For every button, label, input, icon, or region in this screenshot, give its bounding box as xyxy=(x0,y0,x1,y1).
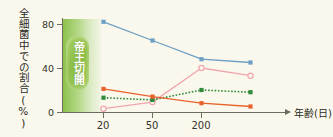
green-series-line xyxy=(104,90,251,100)
orange-series-point-0 xyxy=(101,87,105,91)
orange-series-point-2 xyxy=(199,101,203,105)
blue-series-line xyxy=(104,22,251,63)
blue-series-point-2 xyxy=(199,57,203,61)
green-series-point-2 xyxy=(199,88,203,92)
orange-series-point-1 xyxy=(150,95,154,99)
green-series-point-3 xyxy=(248,90,252,94)
green-series-point-0 xyxy=(101,96,105,100)
pink-series-line xyxy=(104,68,251,109)
pink-series-point-3 xyxy=(248,73,253,78)
orange-series-point-3 xyxy=(248,104,252,108)
blue-series-point-3 xyxy=(248,60,252,64)
blue-series-point-0 xyxy=(101,20,105,24)
pink-series-point-0 xyxy=(101,106,106,111)
chart-figure: 全細菌中での割合(%) 帝王切開 80 40 0 20 50 200 年齢(日) xyxy=(0,0,333,137)
blue-series-point-1 xyxy=(150,38,154,42)
pink-series-point-2 xyxy=(199,65,204,70)
series-layer xyxy=(0,0,333,137)
